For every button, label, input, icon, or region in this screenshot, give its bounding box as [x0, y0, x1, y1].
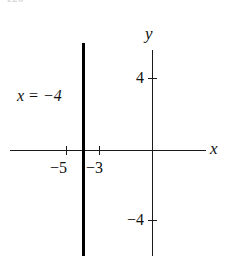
plotted-line-x-equals-minus4 — [82, 43, 85, 256]
equation-annotation: x = −4 — [17, 88, 62, 104]
x-axis-tick-label-minus5: −5 — [50, 160, 67, 176]
y-axis-label: y — [145, 25, 153, 42]
corner-artifact-text: 120 — [6, 0, 24, 4]
y-axis-tick-4 — [148, 78, 157, 79]
x-axis-line — [10, 150, 206, 151]
x-axis-tick-minus3 — [99, 146, 100, 155]
y-axis-line — [152, 50, 153, 256]
x-axis-tick-label-minus3: −3 — [86, 160, 103, 176]
math-figure-graph: 120 x y −5 −3 4 −4 x = −4 — [0, 0, 238, 262]
y-axis-tick-label-4: 4 — [116, 70, 144, 86]
x-axis-label: x — [210, 140, 218, 157]
y-axis-tick-label-minus4: −4 — [116, 212, 144, 228]
x-axis-tick-minus5 — [66, 146, 67, 155]
y-axis-tick-minus4 — [148, 220, 157, 221]
